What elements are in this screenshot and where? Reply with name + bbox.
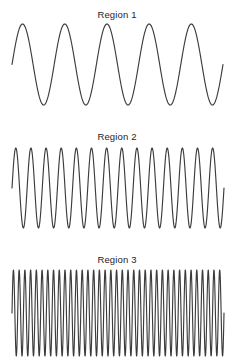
waveform-figure: Region 1 Region 2 Region 3 <box>0 0 234 361</box>
wave-line-region-3 <box>12 270 224 356</box>
waveform-region-3 <box>0 0 234 361</box>
